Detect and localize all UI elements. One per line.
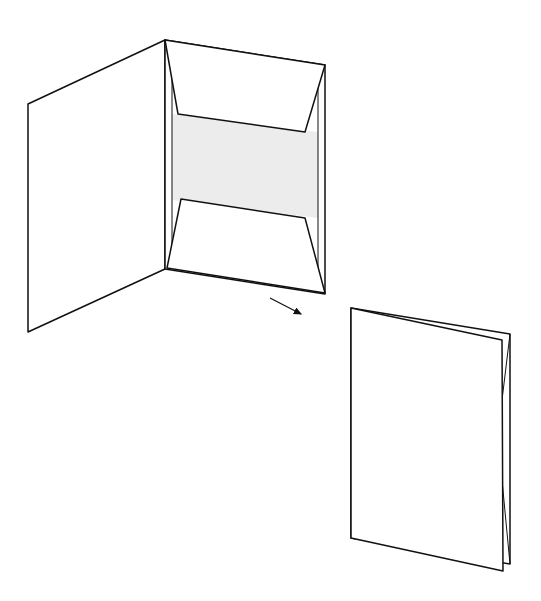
- open-folder: [28, 40, 325, 332]
- folding-diagram: [0, 0, 541, 601]
- front-cover: [351, 308, 503, 571]
- closed-booklet: [351, 308, 510, 571]
- arrow-icon: [270, 298, 301, 314]
- left-panel: [28, 40, 165, 332]
